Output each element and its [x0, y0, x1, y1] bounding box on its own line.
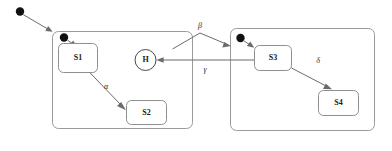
history-pseudostate-label: H: [142, 55, 149, 64]
initial-pseudostate-outer[interactable]: [16, 7, 24, 15]
transition-initial-outer-arrowhead: [45, 26, 52, 32]
transition-alpha-label: α: [104, 82, 109, 91]
transition-delta-label: δ: [316, 56, 320, 65]
transition-gamma-label: γ: [203, 65, 207, 74]
transition-delta-line[interactable]: [292, 68, 328, 87]
transition-initial-outer-line[interactable]: [23, 15, 49, 30]
diagram-canvas: S1 S2 α H β γ S3 S4 δ: [0, 0, 392, 151]
transition-delta-arrowhead: [323, 84, 332, 90]
transition-gamma-arrowhead: [156, 57, 163, 62]
state-s2-label: S2: [142, 108, 150, 117]
transition-beta-label: β: [197, 21, 202, 30]
state-s4-label: S4: [334, 98, 342, 107]
transition-alpha-arrowhead: [117, 102, 126, 110]
initial-pseudostate-right[interactable]: [236, 34, 244, 42]
transition-beta-line[interactable]: [173, 33, 227, 49]
state-s1-label: S1: [74, 53, 82, 62]
statechart-diagram: S1 S2 α H β γ S3 S4 δ: [0, 0, 392, 151]
initial-pseudostate-left[interactable]: [60, 33, 68, 41]
state-s3-label: S3: [269, 53, 277, 62]
transition-initial-right-arrowhead: [247, 42, 254, 48]
